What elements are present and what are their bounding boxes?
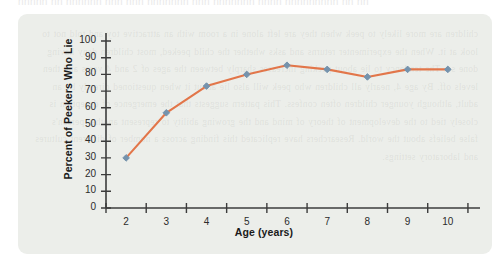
figure-card: children are more likely to peek when th… [18,14,492,254]
y-tick-label: 20 [74,168,96,179]
x-tick-label: 8 [355,216,379,227]
y-tick-label: 40 [74,134,96,145]
y-tick-label: 80 [74,67,96,78]
y-tick-label: 60 [74,101,96,112]
y-tick-label: 10 [74,184,96,195]
y-tick-label: 70 [74,84,96,95]
x-tick-label: 2 [114,216,138,227]
y-tick-label: 100 [74,34,96,45]
y-tick-label: 50 [74,118,96,129]
x-tick-label: 3 [154,216,178,227]
y-tick-label: 30 [74,151,96,162]
x-tick-label: 9 [396,216,420,227]
x-tick-label: 4 [195,216,219,227]
x-tick-label: 7 [315,216,339,227]
x-axis-title: Age (years) [114,226,414,238]
chart-plot-area: Percent of Peekers Who Lie Age (years) 0… [18,14,492,254]
x-tick-label: 5 [235,216,259,227]
y-tick-label: 90 [74,51,96,62]
page-top-bleed-text: nnnnn nn nnnnnn nnn nnn nnnnnnn nnn nnnn… [18,0,369,7]
x-tick-label: 10 [436,216,460,227]
y-tick-label: 0 [74,201,96,212]
x-tick-label: 6 [275,216,299,227]
